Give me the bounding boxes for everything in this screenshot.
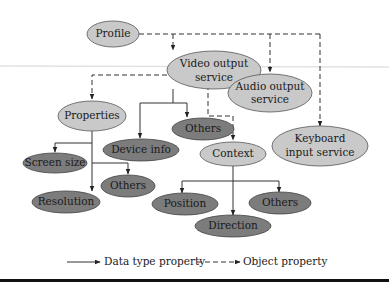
node-properties: Properties [58,101,126,131]
node-screen-size: Screen size [23,153,87,173]
node-label: Resolution [38,195,95,207]
bottom-rule [0,279,389,282]
node-label: Video output [179,57,249,69]
node-label: Audio output [234,80,305,92]
node-label: Properties [64,109,120,121]
node-context: Context [200,142,266,166]
node-label: Position [164,197,207,209]
node-audio-output-service: Audio output service [228,74,312,112]
node-profile: Profile [87,21,139,47]
node-resolution: Resolution [32,191,100,213]
node-label: Others [185,122,221,134]
node-label: Others [262,196,298,208]
node-direction: Direction [195,215,271,237]
node-position: Position [152,193,218,215]
node-label: Direction [208,219,258,231]
node-others-context: Others [249,192,311,214]
legend-data-type-label: Data type property [104,255,205,267]
node-others-video: Others [172,118,234,140]
node-label: input service [285,146,354,158]
node-label: service [195,71,233,83]
legend-object-label: Object property [243,255,327,267]
node-device-info: Device info [103,139,179,161]
node-label: Screen size [24,156,85,168]
node-label: service [251,93,289,105]
node-label: Device info [111,143,171,155]
node-label: Profile [96,27,131,39]
node-label: Context [212,147,254,159]
ontology-diagram: Profile Video output service Audio outpu… [0,0,389,285]
legend: Data type property Object property [67,255,327,267]
node-keyboard-input-service: Keyboard input service [272,126,368,166]
node-others-properties: Others [101,175,155,197]
node-label: Others [110,179,146,191]
node-label: Keyboard [295,132,346,144]
